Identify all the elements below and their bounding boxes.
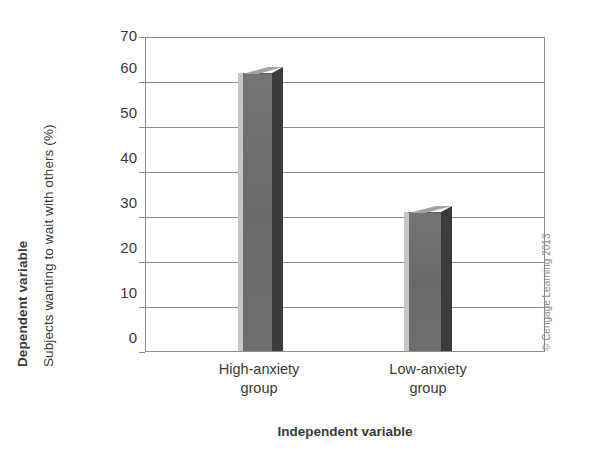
bar-chart-figure: Dependent variable Subjects wanting to w… bbox=[0, 0, 599, 466]
x-category-label-high-anxiety: High-anxiety group bbox=[169, 360, 349, 398]
bar-side-face bbox=[272, 67, 283, 351]
bar-low-anxiety-group[interactable] bbox=[404, 206, 452, 351]
gridline-40 bbox=[146, 172, 544, 173]
y-tick-label-10: 10 bbox=[97, 284, 137, 301]
y-tick-mark-0 bbox=[139, 352, 145, 353]
bar-side-face bbox=[441, 206, 452, 351]
y-tick-label-60: 60 bbox=[97, 59, 137, 76]
x-category-label-low-anxiety: Low-anxiety group bbox=[338, 360, 518, 398]
gridline-60 bbox=[146, 82, 544, 83]
y-tick-label-30: 30 bbox=[97, 194, 137, 211]
gridline-10 bbox=[146, 307, 544, 308]
x-category-line-1: Low-anxiety bbox=[338, 360, 518, 379]
gridline-50 bbox=[146, 127, 544, 128]
dependent-variable-axis-title: Dependent variable bbox=[15, 241, 30, 367]
plot-area bbox=[145, 37, 545, 352]
copyright-credit: © Cengage Learning 2013 bbox=[541, 234, 552, 351]
bar-front-face bbox=[409, 212, 441, 351]
y-tick-label-20: 20 bbox=[97, 239, 137, 256]
x-category-line-1: High-anxiety bbox=[169, 360, 349, 379]
x-category-line-2: group bbox=[169, 379, 349, 398]
y-tick-label-0: 0 bbox=[97, 329, 137, 346]
y-tick-label-40: 40 bbox=[97, 149, 137, 166]
y-tick-label-70: 70 bbox=[97, 27, 137, 44]
gridline-30 bbox=[146, 217, 544, 218]
bar-front-face bbox=[243, 73, 272, 351]
x-category-line-2: group bbox=[338, 379, 518, 398]
y-axis-label: Subjects wanting to wait with others (%) bbox=[41, 124, 56, 367]
gridline-20 bbox=[146, 262, 544, 263]
bar-high-anxiety-group[interactable] bbox=[238, 67, 283, 351]
x-axis-title: Independent variable bbox=[145, 424, 545, 439]
y-tick-label-50: 50 bbox=[97, 104, 137, 121]
